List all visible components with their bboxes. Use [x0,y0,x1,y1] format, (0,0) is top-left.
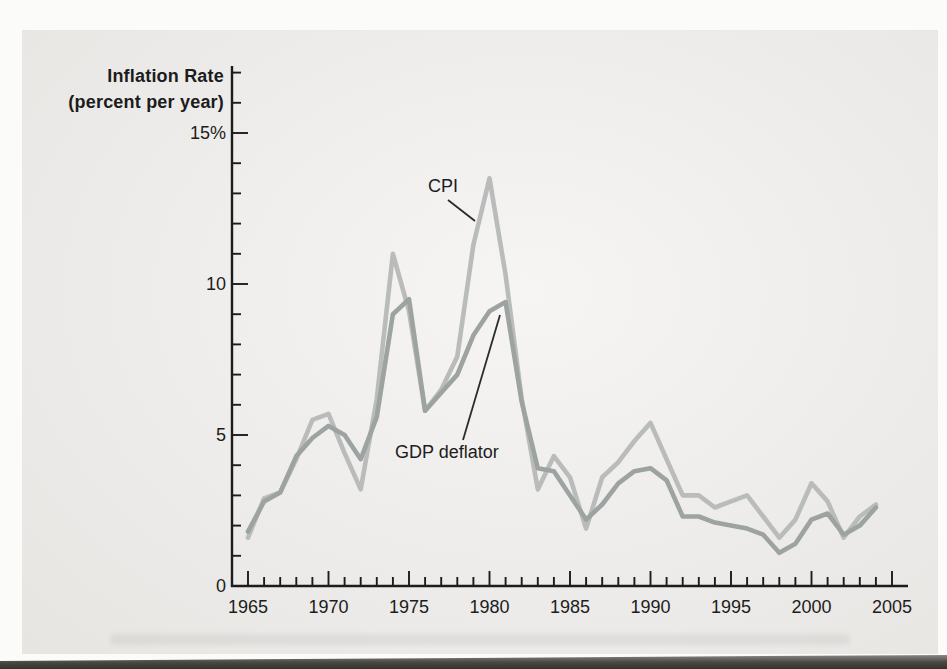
gdp-deflator-pointer-line [463,315,500,440]
x-tick-label: 1965 [213,597,283,618]
y-tick-label: 5 [216,424,226,446]
y-tick-label: 15% [190,122,226,144]
x-tick-label: 1980 [455,597,525,618]
x-tick-label: 1975 [374,597,444,618]
x-tick-label: 2005 [857,597,927,618]
y-axis-title-line2: (percent per year) [58,89,224,115]
gdp-deflator-line [248,299,876,553]
y-tick-label: 10 [206,273,226,295]
cpi-series-label: CPI [428,176,458,196]
y-axis-title-line1: Inflation Rate [58,63,224,89]
gdp-deflator-series-label: GDP deflator [395,442,499,462]
x-tick-label: 1995 [696,597,766,618]
x-tick-label: 1990 [616,597,686,618]
cpi-pointer-line [448,200,475,221]
x-tick-label: 1985 [535,597,605,618]
y-tick-label: 0 [216,575,226,597]
x-tick-label: 2000 [777,597,847,618]
x-tick-label: 1970 [294,597,364,618]
y-axis-title: Inflation Rate (percent per year) [58,63,224,115]
